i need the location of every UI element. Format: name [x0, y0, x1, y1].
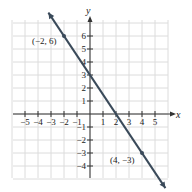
svg-text:4: 4	[140, 117, 145, 127]
data-line	[48, 13, 165, 189]
svg-text:−3: −3	[46, 117, 56, 127]
point-label-1: (−2, 6)	[32, 36, 57, 46]
svg-text:−2: −2	[59, 117, 69, 127]
svg-text:2: 2	[114, 117, 119, 127]
svg-text:6: 6	[82, 31, 87, 41]
svg-text:−1: −1	[76, 122, 86, 132]
x-axis-label: x	[175, 109, 181, 120]
svg-text:5: 5	[82, 44, 87, 54]
line-graph: −5−4−3−2−112345 −4−3−2−1123456 x y (−2, …	[0, 0, 192, 192]
svg-text:3: 3	[82, 70, 87, 80]
svg-text:3: 3	[127, 117, 132, 127]
svg-text:−4: −4	[33, 117, 43, 127]
y-axis-label: y	[85, 5, 91, 16]
point-label-2: (4, −3)	[110, 155, 135, 165]
x-tick-labels: −5−4−3−2−112345	[20, 117, 158, 127]
svg-text:1: 1	[82, 96, 87, 106]
svg-text:1: 1	[101, 117, 106, 127]
svg-text:−4: −4	[76, 161, 86, 171]
svg-text:−5: −5	[20, 117, 30, 127]
svg-text:2: 2	[82, 83, 87, 93]
svg-text:−3: −3	[76, 148, 86, 158]
svg-text:−2: −2	[76, 135, 86, 145]
svg-text:5: 5	[153, 117, 158, 127]
